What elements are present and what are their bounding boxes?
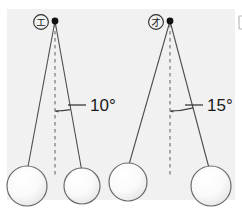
panel-marker-right: オ bbox=[149, 15, 164, 30]
pendulum-bob-left bbox=[109, 163, 147, 201]
pivot-point bbox=[52, 18, 59, 25]
pendulum-bob-right bbox=[191, 166, 231, 206]
pivot-point bbox=[167, 18, 174, 25]
pendulum-bob-left bbox=[7, 166, 47, 206]
pendulum-figure: エ 10° オ 15° bbox=[0, 0, 242, 212]
panel-marker-left: エ bbox=[34, 15, 49, 30]
pendulum-bob-right bbox=[64, 168, 100, 204]
figure-canvas: エ 10° オ 15° bbox=[0, 0, 242, 212]
angle-label-right: 15° bbox=[207, 96, 233, 115]
angle-label-left: 10° bbox=[90, 96, 116, 115]
marker-label: オ bbox=[151, 17, 161, 28]
marker-label: エ bbox=[36, 17, 46, 28]
